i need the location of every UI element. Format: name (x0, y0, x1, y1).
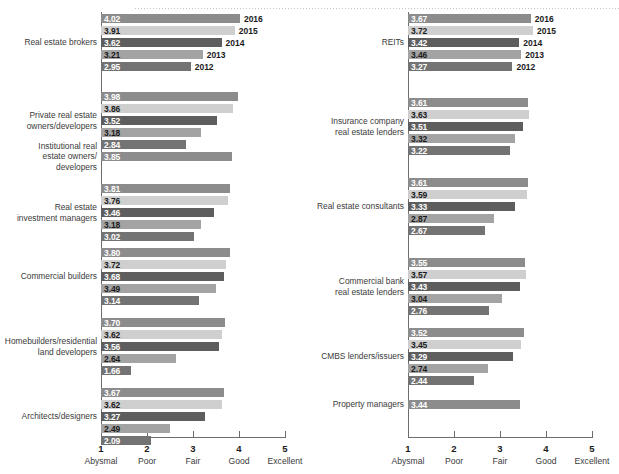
series-year-label: 2013 (207, 50, 226, 59)
bar: 3.49 (101, 284, 216, 293)
category-label: Commercial bank real estate lenders (254, 276, 404, 297)
bar-group: CMBS lenders/issuers3.523.453.292.742.44 (310, 328, 619, 385)
bar: 3.61 (408, 178, 528, 187)
axis-tick-number: 4 (526, 444, 566, 454)
bar: 3.43 (408, 282, 520, 291)
bar-value-label: 4.02 (104, 14, 120, 23)
category-label: Homebuilders/residential land developers (0, 336, 97, 357)
bar-value-label: 3.91 (104, 26, 120, 35)
bar: 3.18 (101, 220, 201, 229)
bar: 3.67 (408, 14, 531, 23)
series-year-label: 2012 (195, 62, 214, 71)
bar: 3.62 (101, 38, 222, 47)
chart-panel-right: 1Abysmal2Poor3Fair4Good5ExcellentREITs3.… (310, 0, 619, 474)
category-label: Institutional real estate owners/ develo… (0, 141, 97, 172)
series-year-label: 2014 (226, 38, 245, 47)
bar-value-label: 3.46 (104, 208, 120, 217)
axis-tick (454, 431, 455, 437)
bar-value-label: 3.27 (104, 412, 120, 421)
bar: 3.72 (101, 260, 226, 269)
bar-group: Architects/designers3.673.623.272.492.09 (0, 388, 309, 445)
bar-group: Property managers3.44 (310, 400, 619, 409)
axis-tick-word: Excellent (257, 457, 313, 466)
bar-group: Insurance company real estate lenders3.6… (310, 98, 619, 155)
bar: 3.59 (408, 190, 527, 199)
axis-tick-number: 3 (173, 444, 213, 454)
bar: 3.62 (101, 400, 222, 409)
bar: 3.67 (101, 388, 224, 397)
bar-value-label: 3.63 (411, 110, 427, 119)
bar: 2.49 (101, 424, 170, 433)
bar-value-label: 3.70 (104, 318, 120, 327)
bar: 2.87 (408, 214, 494, 223)
category-label: Private real estate owners/developers (0, 110, 97, 131)
bar: 3.61 (408, 98, 528, 107)
bar: 3.76 (101, 196, 228, 205)
bar: 3.14 (101, 296, 199, 305)
bar-value-label: 3.62 (104, 38, 120, 47)
bar-value-label: 3.81 (104, 184, 120, 193)
bar: 3.81 (101, 184, 230, 193)
category-label: Architects/designers (0, 411, 97, 421)
bar: 3.22 (408, 146, 510, 155)
bar: 3.55 (408, 258, 525, 267)
bar-group: Institutional real estate owners/ develo… (0, 152, 309, 161)
bar: 3.27 (408, 62, 512, 71)
bar: 3.98 (101, 92, 238, 101)
bar-value-label: 3.80 (104, 248, 120, 257)
category-label: Real estate brokers (0, 37, 97, 47)
series-year-label: 2016 (535, 14, 554, 23)
bar-value-label: 3.45 (411, 340, 427, 349)
bar-value-label: 3.43 (411, 282, 427, 291)
bar: 3.52 (408, 328, 524, 337)
bar-value-label: 3.44 (411, 400, 427, 409)
axis-tick-number: 3 (480, 444, 520, 454)
category-label: REITs (254, 37, 404, 47)
bar-value-label: 3.68 (104, 272, 120, 281)
bar: 3.45 (408, 340, 521, 349)
axis-tick-number: 5 (572, 444, 612, 454)
bar: 3.04 (408, 294, 502, 303)
bar-value-label: 3.72 (104, 260, 120, 269)
axis-tick (546, 431, 547, 437)
bar-value-label: 3.72 (411, 26, 427, 35)
bar-value-label: 3.33 (411, 202, 427, 211)
category-label: Commercial builders (0, 271, 97, 281)
bar-value-label: 3.29 (411, 352, 427, 361)
bar: 2.76 (408, 306, 489, 315)
horizontal-bar-chart: 1Abysmal2Poor3Fair4Good5ExcellentReal es… (0, 0, 619, 474)
bar: 3.02 (101, 232, 194, 241)
bar-value-label: 3.04 (411, 294, 427, 303)
bar-value-label: 2.67 (411, 226, 427, 235)
bar-value-label: 1.66 (104, 366, 120, 375)
bar-value-label: 3.61 (411, 98, 427, 107)
bar-value-label: 3.57 (411, 270, 427, 279)
bar-group: Real estate consultants3.613.593.332.872… (310, 178, 619, 235)
bar-value-label: 3.52 (104, 116, 120, 125)
series-year-label: 2015 (239, 26, 258, 35)
axis-tick-number: 2 (127, 444, 167, 454)
bar-value-label: 3.14 (104, 296, 120, 305)
category-label: Insurance company real estate lenders (254, 116, 404, 137)
bar: 3.33 (408, 202, 515, 211)
bar: 3.46 (408, 50, 521, 59)
bar-value-label: 3.86 (104, 104, 120, 113)
bar-value-label: 3.55 (411, 258, 427, 267)
bar: 3.63 (408, 110, 529, 119)
bar: 2.64 (101, 354, 176, 363)
category-axis-line (408, 437, 593, 438)
bar-value-label: 2.84 (104, 140, 120, 149)
bar-value-label: 2.95 (104, 62, 120, 71)
bar: 4.02 (101, 14, 240, 23)
bar-value-label: 3.18 (104, 220, 120, 229)
bar: 3.86 (101, 104, 233, 113)
bar-value-label: 3.85 (104, 152, 120, 161)
bar: 2.74 (408, 364, 488, 373)
bar: 3.21 (101, 50, 203, 59)
bar-value-label: 2.64 (104, 354, 120, 363)
bar-value-label: 3.52 (411, 328, 427, 337)
series-year-label: 2012 (516, 62, 535, 71)
bar-value-label: 3.67 (411, 14, 427, 23)
axis-tick (500, 431, 501, 437)
axis-tick-word: Excellent (564, 457, 619, 466)
